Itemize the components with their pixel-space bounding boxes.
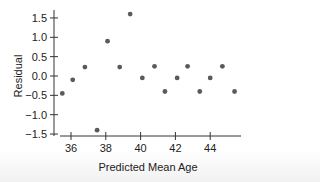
data-point — [152, 64, 157, 69]
x-tick-label: 38 — [100, 142, 112, 154]
x-tick-label: 36 — [65, 142, 77, 154]
y-tick-label: 0.0 — [32, 70, 47, 82]
data-point — [220, 64, 225, 69]
data-point — [70, 77, 75, 82]
x-axis-label: Predicted Mean Age — [98, 161, 197, 173]
data-point — [95, 128, 100, 133]
data-point — [128, 12, 133, 17]
y-tick-label: −0.5 — [25, 89, 47, 101]
data-point — [175, 76, 180, 81]
y-tick-label: 1.5 — [32, 12, 47, 24]
data-point — [117, 65, 122, 70]
x-tick-label: 40 — [134, 142, 146, 154]
y-tick-label: −1.0 — [25, 109, 47, 121]
y-axis-label: Residual — [12, 55, 24, 98]
data-point — [232, 89, 237, 94]
y-tick-label: 0.5 — [32, 51, 47, 63]
data-point — [185, 64, 190, 69]
data-point — [105, 39, 110, 44]
data-point — [60, 91, 65, 96]
residual-scatter-plot: 1.51.00.50.0−0.5−1.0−1.5 3638404244 Resi… — [0, 0, 255, 182]
x-tick-label: 44 — [204, 142, 216, 154]
data-point — [83, 65, 88, 70]
data-point — [163, 89, 168, 94]
y-tick-label: −1.5 — [25, 128, 47, 140]
data-point — [140, 76, 145, 81]
y-axis: 1.51.00.50.0−0.5−1.0−1.5 — [25, 10, 58, 140]
data-point — [197, 89, 202, 94]
data-point — [208, 76, 213, 81]
y-tick-label: 1.0 — [32, 31, 47, 43]
x-axis: 3638404244 — [60, 132, 241, 154]
x-tick-label: 42 — [169, 142, 181, 154]
data-points — [60, 12, 237, 133]
